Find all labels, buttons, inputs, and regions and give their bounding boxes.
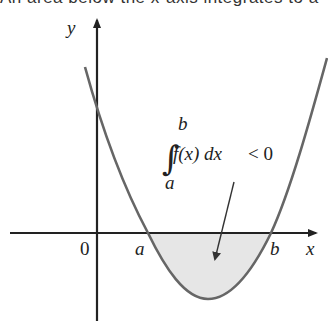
x-axis-label: x	[305, 238, 315, 259]
integral-upper-limit: b	[178, 113, 188, 134]
integral-diagram: y x 0 a b b ∫ f(x) dx < 0 a	[0, 0, 328, 321]
point-b-label: b	[270, 238, 280, 259]
origin-label: 0	[80, 238, 90, 259]
integral-lower-limit: a	[165, 172, 175, 193]
inequality: < 0	[248, 143, 273, 164]
point-a-label: a	[135, 238, 145, 259]
y-axis-label: y	[65, 17, 76, 38]
integrand: f(x) dx	[173, 143, 223, 165]
